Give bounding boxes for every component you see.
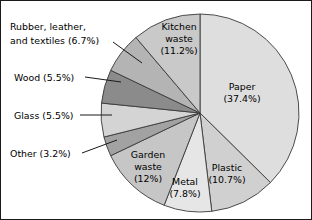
slice-label-glass: Glass (5.5%) xyxy=(14,110,74,121)
pie-slices-group xyxy=(101,14,299,212)
slice-label-garden-line3: (12%) xyxy=(134,173,162,184)
outside-labels-group: Rubber, leather, and textiles (6.7%) Woo… xyxy=(10,21,99,159)
slice-label-garden-line1: Garden xyxy=(131,149,165,160)
slice-label-kitchen-line3: (11.2%) xyxy=(160,45,197,56)
slice-label-wood: Wood (5.5%) xyxy=(14,72,74,83)
slice-label-rubber-line2: and textiles (6.7%) xyxy=(10,35,99,46)
slice-label-kitchen-line2: waste xyxy=(165,33,193,44)
pie-chart-svg: Paper (37.4%) Plastic (10.7%) Metal (7.8… xyxy=(1,1,311,219)
slice-label-plastic-line2: (10.7%) xyxy=(208,174,245,185)
pie-chart-figure: Paper (37.4%) Plastic (10.7%) Metal (7.8… xyxy=(0,0,312,220)
slice-label-garden-line2: waste xyxy=(134,161,162,172)
slice-label-plastic-line1: Plastic xyxy=(212,162,242,173)
slice-label-paper-line1: Paper xyxy=(229,81,256,92)
slice-label-paper-line2: (37.4%) xyxy=(223,93,260,104)
slice-label-metal-line2: (7.8%) xyxy=(169,188,200,199)
slice-label-other: Other (3.2%) xyxy=(10,148,71,159)
slice-label-metal-line1: Metal xyxy=(172,176,198,187)
slice-label-rubber-line1: Rubber, leather, xyxy=(10,21,86,32)
slice-label-kitchen-line1: Kitchen xyxy=(161,21,196,32)
